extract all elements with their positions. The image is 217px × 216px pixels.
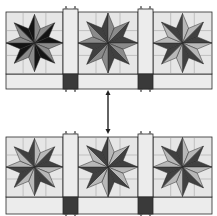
seam-marker	[149, 6, 151, 9]
seam-marker	[74, 131, 76, 134]
seam-marker	[65, 89, 67, 92]
seam-marker	[74, 89, 76, 92]
cornerstone	[63, 74, 78, 89]
sashing-column	[138, 9, 153, 74]
sashing-strip	[6, 74, 212, 89]
seam-marker	[65, 6, 67, 9]
quilt-rows	[6, 6, 212, 216]
seam-marker	[149, 89, 151, 92]
star-block-3	[153, 137, 212, 197]
cornerstone	[63, 197, 78, 214]
seam-marker	[74, 6, 76, 9]
seam-marker	[149, 131, 151, 134]
cornerstone	[138, 74, 153, 89]
double-arrow-icon	[106, 90, 111, 134]
seam-marker	[140, 6, 142, 9]
top-row	[6, 6, 212, 92]
quilt-diagram	[0, 0, 217, 216]
seam-marker	[65, 131, 67, 134]
star-block-3	[153, 12, 212, 74]
star-block-1	[6, 12, 63, 74]
star-block-1	[6, 137, 63, 197]
sashing-column	[138, 134, 153, 197]
bottom-row	[6, 131, 212, 216]
sashing-column	[63, 134, 78, 197]
seam-marker	[140, 89, 142, 92]
star-block-2	[78, 137, 138, 197]
sashing-strip	[6, 197, 212, 214]
sashing-column	[63, 9, 78, 74]
star-block-2	[78, 12, 138, 74]
seam-marker	[140, 131, 142, 134]
cornerstone	[138, 197, 153, 214]
